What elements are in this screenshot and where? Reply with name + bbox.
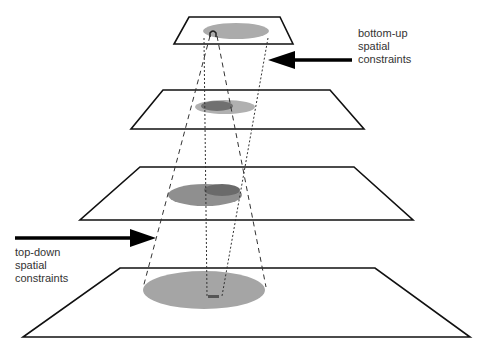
top-down-cone-left: [143, 36, 210, 288]
bottom-up-label-line-1: bottom-up: [358, 27, 411, 40]
top-down-label-line-3: constraints: [15, 272, 68, 285]
focus-patch-level-4: [208, 295, 219, 298]
bottom-up-label: bottom-up spatial constraints: [358, 27, 411, 66]
bottom-up-label-line-2: spatial: [358, 40, 411, 53]
bottom-up-arrow: [268, 51, 352, 69]
top-down-arrow: [15, 229, 156, 247]
top-down-cone-right: [217, 36, 266, 287]
top-down-label: top-down spatial constraints: [15, 246, 68, 285]
subregion-level-2: [201, 101, 233, 111]
subregion-level-3: [204, 184, 240, 196]
region-level-4: [143, 271, 265, 309]
bottom-up-label-line-3: constraints: [358, 53, 411, 66]
top-down-label-line-2: spatial: [15, 259, 68, 272]
top-down-label-line-1: top-down: [15, 246, 68, 259]
plane-level-3: [80, 167, 413, 220]
